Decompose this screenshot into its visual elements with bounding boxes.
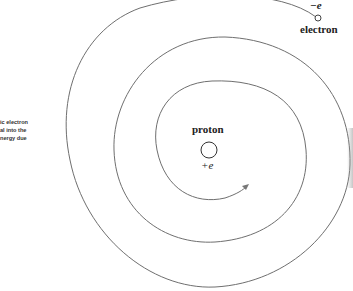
electron-label: electron [300,23,338,35]
electron-icon [315,15,321,21]
proton-label: proton [192,123,224,135]
proton-icon [201,142,217,158]
proton-charge-label: +e [201,159,213,171]
electron-charge-label: −e [310,0,322,11]
page-edge-shadow [347,128,353,188]
spiral-diagram [0,0,353,291]
